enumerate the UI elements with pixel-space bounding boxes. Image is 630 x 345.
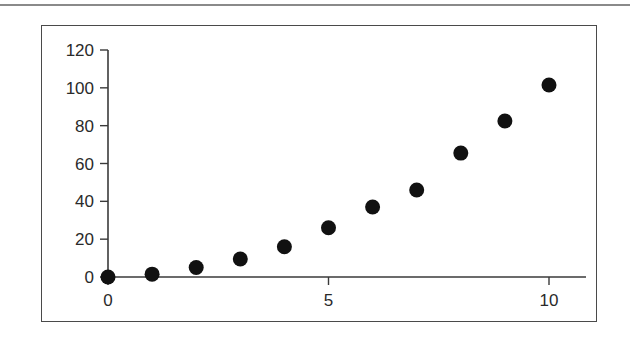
data-point bbox=[409, 182, 424, 197]
y-tick-label: 120 bbox=[66, 41, 94, 60]
y-tick-label: 0 bbox=[85, 268, 94, 287]
y-tick-label: 20 bbox=[75, 230, 94, 249]
axes bbox=[108, 50, 586, 277]
data-point bbox=[321, 220, 336, 235]
x-tick-label: 5 bbox=[324, 291, 333, 310]
data-point bbox=[189, 260, 204, 275]
data-point bbox=[233, 252, 248, 267]
data-points bbox=[101, 77, 557, 284]
data-point bbox=[101, 270, 116, 285]
data-point bbox=[497, 113, 512, 128]
data-point bbox=[453, 146, 468, 161]
x-axis-ticks: 0510 bbox=[103, 277, 558, 310]
data-point bbox=[145, 267, 160, 282]
data-point bbox=[365, 200, 380, 215]
x-tick-label: 0 bbox=[103, 291, 112, 310]
data-point bbox=[542, 77, 557, 92]
y-tick-label: 40 bbox=[75, 192, 94, 211]
y-tick-label: 60 bbox=[75, 155, 94, 174]
y-axis-ticks: 020406080100120 bbox=[66, 41, 108, 287]
x-tick-label: 10 bbox=[540, 291, 559, 310]
y-tick-label: 80 bbox=[75, 117, 94, 136]
scatter-chart: 020406080100120 0510 bbox=[0, 0, 630, 345]
y-tick-label: 100 bbox=[66, 79, 94, 98]
data-point bbox=[277, 239, 292, 254]
